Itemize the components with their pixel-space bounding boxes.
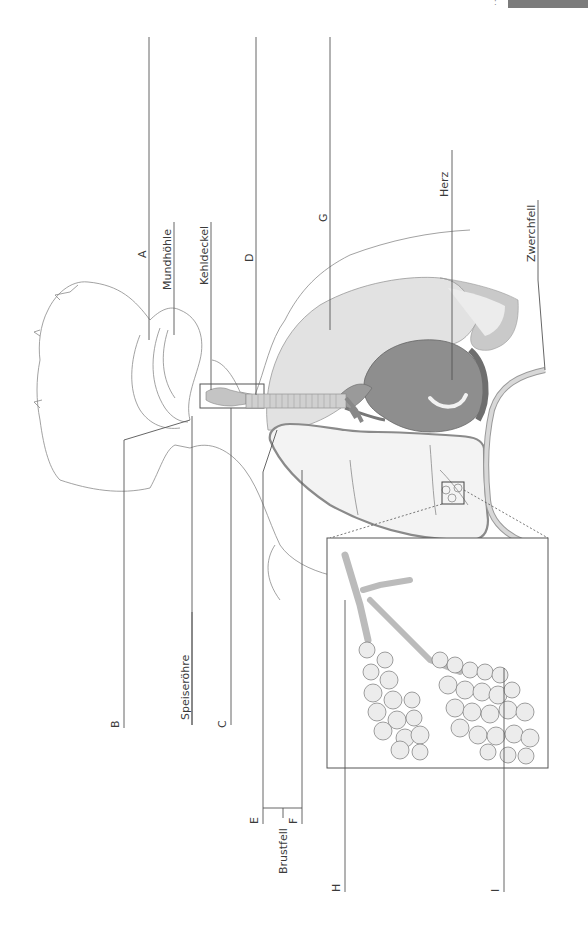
label-brustfell: Brustfell <box>277 828 290 874</box>
respiratory-diagram: A Mundhöhle Kehldeckel D G Herz Zwerchfe… <box>0 0 588 929</box>
diaphragm <box>486 370 545 548</box>
label-e: E <box>248 817 261 824</box>
label-a: A <box>136 250 149 258</box>
label-kehldeckel: Kehldeckel <box>198 226 211 285</box>
label-d: D <box>243 254 256 262</box>
label-c: C <box>216 720 229 728</box>
label-herz: Herz <box>438 171 451 197</box>
label-b: B <box>109 720 122 728</box>
label-zwerchfell: Zwerchfell <box>525 205 538 262</box>
label-mundhoehle: Mundhöhle <box>161 229 174 290</box>
label-speiseroehre: Speiseröhre <box>179 654 192 720</box>
alveoli-inset <box>327 538 548 768</box>
label-g: G <box>317 213 330 222</box>
label-h: H <box>330 884 343 892</box>
label-i: I <box>489 889 502 892</box>
label-f: F <box>287 818 300 824</box>
